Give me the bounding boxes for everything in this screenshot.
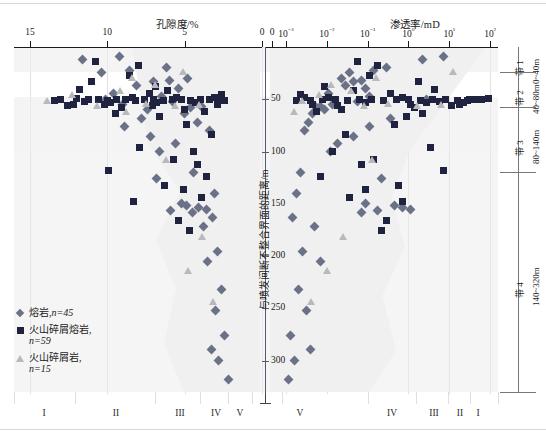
data-point-square-porosity-33 xyxy=(92,58,99,65)
data-point-triangle-porosity-12 xyxy=(209,298,217,305)
zone-name-4: 带 4 xyxy=(513,282,526,298)
data-point-square-permeability-34 xyxy=(403,113,410,120)
permeability-axis-line xyxy=(266,47,498,48)
legend-label-pyroclastic-rock: 火山碎屑岩,n=15 xyxy=(29,352,82,375)
data-point-square-porosity-26 xyxy=(164,87,171,94)
bottom-separator-0 xyxy=(14,392,15,404)
quality-class-right-IV: IV xyxy=(387,408,397,418)
data-point-square-porosity-22 xyxy=(211,94,218,101)
data-point-square-porosity-32 xyxy=(135,62,142,69)
data-point-square-porosity-37 xyxy=(136,144,143,151)
data-point-square-porosity-36 xyxy=(208,131,215,138)
legend-item-pyroclastic-lava: 火山碎屑熔岩,n=59 xyxy=(14,324,122,347)
quality-class-right-V: V xyxy=(297,408,304,418)
depth-tick-300 xyxy=(262,361,269,362)
legend-label-pyroclastic-lava: 火山碎屑熔岩,n=59 xyxy=(29,324,92,347)
data-point-square-porosity-57 xyxy=(180,186,187,193)
quality-class-left-II: II xyxy=(113,408,119,418)
quality-class-left-V: V xyxy=(237,408,244,418)
permeability-tick-label-3: 10⁻¹ xyxy=(352,27,384,39)
bottom-separator-7 xyxy=(368,392,369,404)
data-point-square-porosity-39 xyxy=(194,161,201,168)
legend-item-lava: 熔岩,n=45 xyxy=(14,307,122,319)
porosity-tick-0 xyxy=(262,41,263,47)
data-point-square-porosity-54 xyxy=(112,110,119,117)
bottom-separator-2 xyxy=(155,392,156,404)
data-point-square-permeability-37 xyxy=(427,144,434,151)
data-point-triangle-porosity-5 xyxy=(93,102,101,109)
square-icon xyxy=(14,327,26,334)
data-point-square-porosity-31 xyxy=(88,78,95,85)
data-point-triangle-permeability-4 xyxy=(315,91,323,98)
bottom-separator-9 xyxy=(448,392,449,404)
data-point-square-porosity-50 xyxy=(76,86,83,93)
data-point-square-porosity-41 xyxy=(161,182,168,189)
data-point-square-porosity-18 xyxy=(129,94,136,101)
legend: 熔岩,n=45 火山碎屑熔岩,n=59 火山碎屑岩,n=15 xyxy=(14,307,122,380)
bottom-separator-1 xyxy=(75,392,76,404)
porosity-tick-label-5: 5 xyxy=(170,27,200,37)
bottom-separator-3 xyxy=(200,392,201,404)
top-divider xyxy=(0,3,546,4)
data-point-triangle-porosity-10 xyxy=(198,233,206,240)
quality-class-right-II: II xyxy=(457,408,463,418)
data-point-square-permeability-47 xyxy=(309,101,316,108)
data-point-square-porosity-52 xyxy=(218,91,225,98)
data-point-square-porosity-46 xyxy=(101,101,108,108)
data-point-triangle-porosity-3 xyxy=(43,97,51,104)
data-point-square-permeability-48 xyxy=(334,102,341,109)
data-point-square-permeability-41 xyxy=(395,182,402,189)
data-point-square-permeability-15 xyxy=(485,95,492,102)
data-point-square-permeability-25 xyxy=(387,90,394,97)
zone-range-3: 80~140m xyxy=(531,129,541,163)
depth-tick-label-100: 100 xyxy=(271,146,285,156)
permeability-tick-label-5: 10¹ xyxy=(433,27,465,39)
data-point-square-porosity-34 xyxy=(156,113,163,120)
permeability-tick-4 xyxy=(408,41,409,47)
data-point-square-permeability-30 xyxy=(448,102,455,109)
data-point-square-permeability-31 xyxy=(415,78,422,85)
data-point-square-porosity-29 xyxy=(201,108,208,115)
data-point-triangle-permeability-10 xyxy=(339,233,347,240)
zone-name-1: 带 1 xyxy=(513,60,526,76)
depth-tick-100 xyxy=(262,152,269,153)
data-point-square-porosity-23 xyxy=(221,97,228,104)
data-point-square-porosity-42 xyxy=(198,194,205,201)
data-point-square-permeability-24 xyxy=(472,96,479,103)
data-point-triangle-porosity-9 xyxy=(162,156,170,163)
permeability-tick-label-6: 10² xyxy=(474,27,506,39)
depth-tick-50 xyxy=(262,99,269,100)
zone-name-3: 带 3 xyxy=(513,140,526,156)
data-point-square-porosity-58 xyxy=(130,198,137,205)
depth-tick-label-50: 50 xyxy=(271,93,281,103)
data-point-square-porosity-45 xyxy=(70,101,77,108)
data-point-square-permeability-55 xyxy=(329,148,336,155)
data-point-square-permeability-57 xyxy=(362,186,369,193)
legend-label-lava: 熔岩,n=45 xyxy=(29,307,73,319)
bottom-separator-5 xyxy=(252,392,253,404)
bottom-separator-6 xyxy=(282,392,283,404)
zone-range-1: 0~40m xyxy=(531,58,541,83)
data-point-square-permeability-45 xyxy=(456,101,463,108)
data-point-square-permeability-29 xyxy=(313,108,320,115)
data-point-square-porosity-20 xyxy=(173,94,180,101)
data-point-square-porosity-38 xyxy=(170,156,177,163)
permeability-tick-1 xyxy=(286,41,287,47)
y-axis-label: 与喷发间断不整合界面的距离/m xyxy=(256,169,271,310)
data-point-triangle-permeability-0 xyxy=(347,87,355,94)
data-point-triangle-permeability-14 xyxy=(449,68,457,75)
data-point-square-permeability-20 xyxy=(325,94,332,101)
data-point-square-permeability-17 xyxy=(423,99,430,106)
data-point-square-permeability-56 xyxy=(317,173,324,180)
triangle-icon xyxy=(14,355,26,362)
data-point-square-permeability-33 xyxy=(354,58,361,65)
porosity-tick-5 xyxy=(185,41,186,47)
data-point-triangle-permeability-11 xyxy=(323,267,331,274)
data-point-square-permeability-43 xyxy=(383,217,390,224)
porosity-tick-15 xyxy=(30,41,31,47)
data-point-triangle-porosity-2 xyxy=(151,81,159,88)
data-point-triangle-permeability-12 xyxy=(307,298,315,305)
bottom-separator-4 xyxy=(228,392,229,404)
data-point-square-permeability-44 xyxy=(378,227,385,234)
data-point-square-permeability-36 xyxy=(342,131,349,138)
